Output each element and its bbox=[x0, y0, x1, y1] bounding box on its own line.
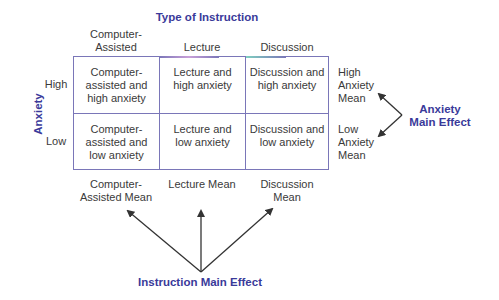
arrow-to-discussion-mean-icon bbox=[201, 209, 272, 272]
effect-arrows bbox=[0, 0, 499, 300]
arrow-to-low-anxiety-mean-icon bbox=[379, 115, 402, 136]
arrow-to-computer-mean-icon bbox=[128, 211, 201, 272]
arrow-to-high-anxiety-mean-icon bbox=[379, 94, 402, 115]
